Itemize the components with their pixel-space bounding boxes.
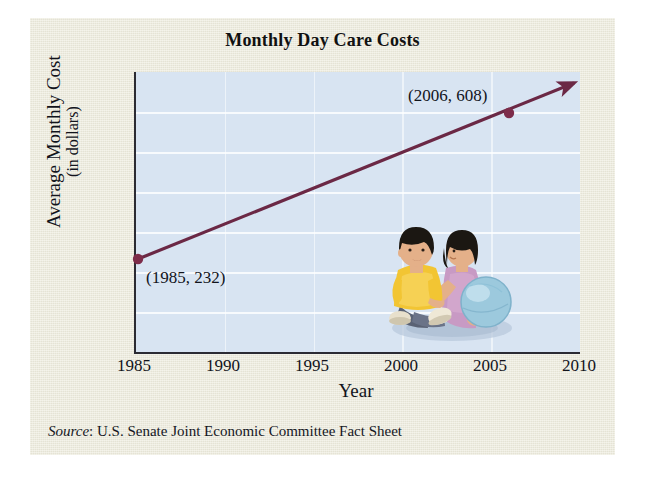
x-tick-1995: 1995 [277, 356, 347, 376]
y-axis-title-line2: (in dollars) [65, 37, 83, 247]
source-text: U.S. Senate Joint Economic Committee Fac… [97, 423, 402, 439]
annotation-2006: (2006, 608) [408, 86, 487, 106]
y-axis-title: Average Monthly Cost (in dollars) [43, 37, 82, 247]
data-point-2006 [504, 108, 514, 118]
y-axis-title-line1: Average Monthly Cost [43, 55, 64, 228]
source-separator: : [89, 423, 93, 439]
source-label: Source [48, 423, 89, 439]
trend-line [136, 72, 580, 352]
x-tick-2000: 2000 [366, 356, 436, 376]
source-note: Source: U.S. Senate Joint Economic Commi… [48, 423, 402, 440]
x-axis-title: Year [134, 380, 578, 402]
figure-panel: Monthly Day Care Costs Average Monthly C… [30, 18, 615, 455]
plot-area: (2006, 608) (1985, 232) [134, 72, 580, 354]
x-tick-2005: 2005 [455, 356, 525, 376]
x-tick-1990: 1990 [188, 356, 258, 376]
page-title: Monthly Day Care Costs [30, 30, 615, 51]
x-tick-1985: 1985 [99, 356, 169, 376]
annotation-1985: (1985, 232) [146, 268, 225, 288]
x-tick-2010: 2010 [544, 356, 614, 376]
data-point-1985 [133, 254, 143, 264]
